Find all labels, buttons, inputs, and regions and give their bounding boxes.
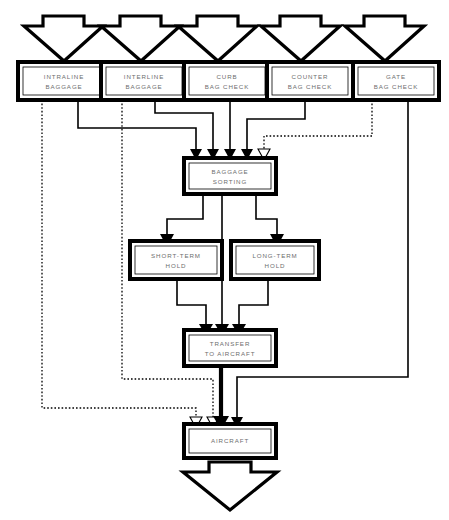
node-label-line1: BAGGAGE	[211, 168, 248, 175]
node-aircraft[interactable]: AIRCRAFT	[184, 424, 276, 458]
node-label-line1: CURB	[216, 73, 237, 80]
node-label-line2: TO AIRCRAFT	[205, 350, 256, 357]
node-label-line2: BAGGAGE	[45, 83, 82, 90]
edge-long-hold-to-transfer	[239, 278, 268, 328]
input-arrow-gate	[345, 16, 424, 61]
input-arrow-curb	[178, 16, 257, 61]
node-label-line2: SORTING	[213, 178, 247, 185]
node-intraline-baggage[interactable]: INTRALINE BAGGAGE	[18, 62, 110, 100]
node-label-line2: BAG CHECK	[374, 83, 419, 90]
node-label-line2: HOLD	[265, 262, 286, 269]
node-label-line2: HOLD	[166, 262, 187, 269]
node-label-line1: INTRALINE	[44, 73, 84, 80]
node-gate-bag-check[interactable]: GATE BAG CHECK	[353, 62, 439, 100]
edge-interline-to-sorting	[155, 100, 213, 150]
node-label-line1: TRANSFER	[210, 340, 251, 347]
edge-sorting-to-short-hold	[167, 192, 203, 240]
node-interline-baggage[interactable]: INTERLINE BAGGAGE	[101, 62, 187, 100]
node-curb-bag-check[interactable]: CURB BAG CHECK	[184, 62, 270, 100]
input-arrow-intraline	[24, 16, 103, 61]
node-baggage-sorting[interactable]: BAGGAGE SORTING	[184, 158, 276, 194]
edge-counter-to-sorting	[247, 100, 305, 150]
node-label-line2: BAG CHECK	[288, 83, 333, 90]
node-long-term-hold[interactable]: LONG-TERM HOLD	[231, 241, 319, 279]
output-arrow-aircraft	[183, 462, 277, 510]
node-transfer-to-aircraft[interactable]: TRANSFER TO AIRCRAFT	[184, 330, 276, 366]
node-label-line1: SHORT-TERM	[151, 252, 201, 259]
node-label-line1: COUNTER	[292, 73, 329, 80]
node-label-line1: GATE	[386, 73, 406, 80]
edge-gate-to-sorting	[264, 100, 372, 150]
node-short-term-hold[interactable]: SHORT-TERM HOLD	[130, 241, 222, 279]
edge-sorting-to-long-hold	[256, 192, 277, 240]
edge-short-hold-to-transfer	[177, 278, 206, 328]
input-arrow-interline	[101, 16, 180, 61]
input-arrow-counter	[261, 16, 340, 61]
node-label-line2: BAGGAGE	[125, 83, 162, 90]
flowchart-svg: INTRALINE BAGGAGE INTERLINE BAGGAGE CURB…	[0, 0, 449, 520]
node-label-line1: INTERLINE	[124, 73, 164, 80]
node-label-line1: AIRCRAFT	[211, 437, 249, 444]
node-label-line1: LONG-TERM	[252, 252, 297, 259]
flowchart-canvas: INTRALINE BAGGAGE INTERLINE BAGGAGE CURB…	[0, 0, 449, 520]
node-label-line2: BAG CHECK	[205, 83, 250, 90]
node-counter-bag-check[interactable]: COUNTER BAG CHECK	[267, 62, 353, 100]
edge-intraline-to-sorting	[78, 100, 196, 150]
